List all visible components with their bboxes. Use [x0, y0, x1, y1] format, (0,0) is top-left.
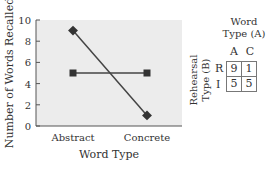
- col-title-line1: Word: [220, 16, 268, 28]
- y-tick-label: 10: [18, 15, 31, 26]
- row-title-line1: Rehearsal: [188, 50, 200, 110]
- table-row: 5 5: [227, 77, 257, 92]
- col-header-c: C: [242, 45, 258, 58]
- line-chart: 0246810 Abstract Concrete Word Type Numb…: [0, 0, 200, 169]
- row-label-r: R: [215, 62, 223, 75]
- y-tick-label: 2: [25, 100, 31, 111]
- cell-i-c: 5: [242, 77, 257, 92]
- row-title-line2: Type (B): [200, 50, 212, 110]
- y-tick-label: 8: [25, 36, 31, 47]
- y-axis-title: Number of Words Recalled: [3, 0, 16, 148]
- table-col-headers: AC: [226, 45, 258, 58]
- table-row-title: Rehearsal Type (B): [188, 50, 212, 110]
- cell-r-a: 9: [227, 62, 242, 77]
- cell-i-a: 5: [227, 77, 242, 92]
- table-col-title: Word Type (A): [220, 16, 268, 40]
- cell-r-c: 1: [242, 62, 257, 77]
- col-title-line2: Type (A): [220, 28, 268, 40]
- square-marker: [144, 70, 151, 77]
- y-tick-label: 6: [25, 57, 31, 68]
- table-row: 9 1: [227, 62, 257, 77]
- y-tick-label: 4: [25, 79, 31, 90]
- x-tick-label-concrete: Concrete: [124, 132, 170, 143]
- row-label-i: I: [216, 78, 220, 91]
- data-table: 9 1 5 5: [226, 61, 257, 92]
- x-axis-title: Word Type: [79, 148, 139, 161]
- y-tick-label: 0: [25, 121, 31, 132]
- x-tick-label-abstract: Abstract: [50, 132, 94, 143]
- square-marker: [70, 70, 77, 77]
- col-header-a: A: [226, 45, 242, 58]
